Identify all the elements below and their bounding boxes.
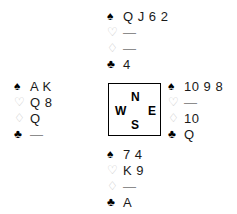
diamond-icon: ♢	[14, 112, 27, 124]
hand-east-clubs: Q	[181, 128, 195, 141]
hand-south-diamonds-row: ♢ —	[107, 178, 144, 194]
hand-south-hearts: K 9	[120, 164, 144, 177]
hand-west-diamonds-row: ♢ Q	[14, 110, 52, 126]
hand-south: ♠ 7 4 ♡ K 9 ♢ — ♣ A	[107, 146, 144, 210]
bridge-hand-diagram: ♠ Q J 6 2 ♡ — ♢ — ♣ 4 ♠ A K ♡ Q 8 ♢ Q	[0, 0, 237, 214]
diamond-icon: ♢	[107, 180, 120, 192]
hand-north-spades: Q J 6 2	[120, 10, 168, 23]
hand-north-hearts: —	[120, 26, 137, 39]
hand-south-clubs-row: ♣ A	[107, 194, 144, 210]
compass-south-label: S	[131, 119, 139, 131]
diamond-icon: ♢	[107, 42, 120, 54]
compass-west-label: W	[115, 105, 126, 117]
hand-east-diamonds-row: ♢ 10	[168, 110, 223, 126]
spade-icon: ♠	[107, 10, 120, 22]
hand-east-clubs-row: ♣ Q	[168, 126, 223, 142]
diamond-icon: ♢	[168, 112, 181, 124]
hand-west-spades: A K	[27, 80, 52, 93]
hand-north: ♠ Q J 6 2 ♡ — ♢ — ♣ 4	[107, 8, 168, 72]
club-icon: ♣	[14, 128, 27, 140]
hand-north-diamonds: —	[120, 42, 137, 55]
heart-icon: ♡	[14, 96, 27, 108]
hand-west-hearts: Q 8	[27, 96, 52, 109]
heart-icon: ♡	[168, 96, 181, 108]
hand-south-diamonds: —	[120, 180, 137, 193]
hand-east-hearts: —	[181, 96, 198, 109]
hand-south-clubs: A	[120, 196, 132, 209]
hand-east-hearts-row: ♡ —	[168, 94, 223, 110]
heart-icon: ♡	[107, 164, 120, 176]
hand-south-spades: 7 4	[120, 148, 143, 161]
club-icon: ♣	[107, 58, 120, 70]
hand-north-clubs-row: ♣ 4	[107, 56, 168, 72]
hand-west-diamonds: Q	[27, 112, 41, 125]
club-icon: ♣	[107, 196, 120, 208]
hand-north-hearts-row: ♡ —	[107, 24, 168, 40]
compass-east-label: E	[148, 105, 156, 117]
heart-icon: ♡	[107, 26, 120, 38]
hand-south-hearts-row: ♡ K 9	[107, 162, 144, 178]
hand-north-clubs: 4	[120, 58, 131, 71]
spade-icon: ♠	[14, 80, 27, 92]
hand-west-spades-row: ♠ A K	[14, 78, 52, 94]
spade-icon: ♠	[168, 80, 181, 92]
hand-east-spades-row: ♠ 10 9 8	[168, 78, 223, 94]
compass-north-label: N	[131, 91, 140, 103]
club-icon: ♣	[168, 128, 181, 140]
hand-west: ♠ A K ♡ Q 8 ♢ Q ♣ —	[14, 78, 52, 142]
hand-west-clubs: —	[27, 128, 44, 141]
compass-box: N W E S	[108, 83, 161, 136]
hand-east: ♠ 10 9 8 ♡ — ♢ 10 ♣ Q	[168, 78, 223, 142]
hand-west-clubs-row: ♣ —	[14, 126, 52, 142]
spade-icon: ♠	[107, 148, 120, 160]
hand-east-diamonds: 10	[181, 112, 199, 125]
hand-north-diamonds-row: ♢ —	[107, 40, 168, 56]
hand-west-hearts-row: ♡ Q 8	[14, 94, 52, 110]
hand-north-spades-row: ♠ Q J 6 2	[107, 8, 168, 24]
hand-south-spades-row: ♠ 7 4	[107, 146, 144, 162]
hand-east-spades: 10 9 8	[181, 80, 223, 93]
